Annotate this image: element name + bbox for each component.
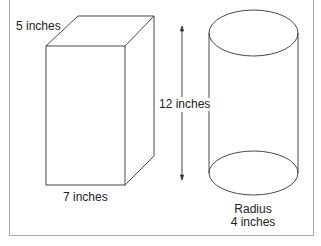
- cylinder-top-ellipse: [209, 10, 298, 56]
- cylinder-bottom-ellipse: [209, 151, 298, 195]
- prism-width-label: 7 inches: [63, 191, 108, 204]
- arrow-down-icon: [181, 175, 184, 180]
- prism-top-face: [46, 16, 154, 46]
- arrow-up-icon: [181, 26, 184, 31]
- height-label: 12 inches: [159, 98, 210, 111]
- rectangular-prism: [46, 16, 154, 185]
- prism-front-face: [46, 46, 125, 185]
- prism-depth-label: 5 inches: [16, 20, 61, 33]
- radius-value-label: 4 inches: [218, 216, 288, 229]
- cylinder: [209, 10, 298, 195]
